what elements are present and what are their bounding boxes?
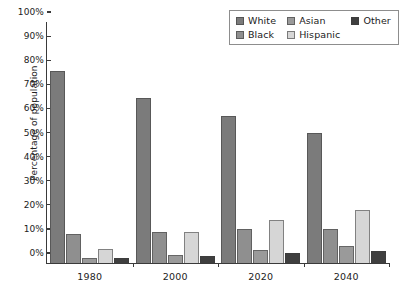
legend-label: Asian — [299, 15, 325, 26]
y-axis-tick: 20% — [24, 200, 47, 210]
bar — [200, 256, 215, 263]
y-axis-tick: 60% — [24, 103, 47, 113]
y-axis-tick: 50% — [24, 128, 47, 138]
bar — [269, 220, 284, 263]
chart-legend: WhiteAsianOtherBlackHispanic — [229, 10, 399, 45]
legend-label: Other — [363, 15, 390, 26]
y-axis-tick: 0% — [30, 248, 47, 258]
x-axis-tick-mark — [133, 263, 134, 267]
bar-group — [304, 22, 390, 263]
x-axis-tick-mark — [304, 263, 305, 267]
bar — [237, 229, 252, 263]
legend-swatch — [287, 17, 295, 25]
y-axis-tick: 80% — [24, 55, 47, 65]
legend-item-hispanic: Hispanic — [287, 29, 340, 40]
bar — [355, 210, 370, 263]
y-axis-tick-label: 50% — [24, 128, 47, 138]
bar — [323, 229, 338, 263]
bar — [50, 71, 65, 263]
legend-label: Black — [248, 29, 274, 40]
y-axis-tick: 30% — [24, 176, 47, 186]
bar-group — [218, 22, 304, 263]
y-axis-tick-label: 40% — [24, 152, 47, 162]
bar — [371, 251, 386, 263]
x-axis-label: 2040 — [334, 271, 359, 282]
x-axis-label: 1980 — [77, 271, 102, 282]
legend-item-other: Other — [351, 15, 390, 26]
bar — [114, 258, 129, 263]
bar — [66, 234, 81, 263]
bar — [168, 255, 183, 263]
y-axis-tick-label: 80% — [24, 55, 47, 65]
y-axis-tick-label: 60% — [24, 103, 47, 113]
x-axis-label: 2000 — [163, 271, 188, 282]
y-axis-tick: 70% — [24, 79, 47, 89]
bar — [98, 249, 113, 263]
x-axis-tick-mark — [218, 263, 219, 267]
bar — [221, 116, 236, 263]
bar — [82, 258, 97, 263]
y-axis-tick-label: 20% — [24, 200, 47, 210]
y-axis-tick-label: 100% — [18, 7, 47, 17]
y-axis-tick-label: 70% — [24, 79, 47, 89]
legend-swatch — [287, 31, 295, 39]
y-axis-tick: 100% — [18, 7, 47, 17]
legend-label: White — [248, 15, 276, 26]
bar — [184, 232, 199, 263]
bar — [152, 232, 167, 263]
y-axis-tick-label: 30% — [24, 176, 47, 186]
y-axis-tick: 90% — [24, 31, 47, 41]
bars-layer — [47, 22, 389, 263]
y-axis-tick-label: 10% — [24, 224, 47, 234]
bar-chart: Percentage of population 0%10%20%30%40%5… — [0, 0, 400, 290]
legend-swatch — [236, 17, 244, 25]
y-axis-tick: 40% — [24, 152, 47, 162]
y-axis-tick-mark — [47, 11, 51, 12]
bar — [339, 246, 354, 263]
bar-group — [133, 22, 219, 263]
legend-label: Hispanic — [299, 29, 340, 40]
legend-swatch — [236, 31, 244, 39]
y-axis-tick-label: 90% — [24, 31, 47, 41]
legend-item-asian: Asian — [287, 15, 340, 26]
bar — [307, 133, 322, 263]
bar-group — [47, 22, 133, 263]
x-axis-tick-mark — [389, 263, 390, 267]
x-axis-label: 2020 — [248, 271, 273, 282]
bar — [253, 250, 268, 263]
legend-item-white: White — [236, 15, 276, 26]
legend-swatch — [351, 17, 359, 25]
bar — [136, 98, 151, 263]
bar — [285, 253, 300, 263]
plot-area: 0%10%20%30%40%50%60%70%80%90%100% 198020… — [46, 22, 389, 264]
legend-item-black: Black — [236, 29, 276, 40]
y-axis-tick-label: 0% — [30, 248, 47, 258]
y-axis-tick: 10% — [24, 224, 47, 234]
